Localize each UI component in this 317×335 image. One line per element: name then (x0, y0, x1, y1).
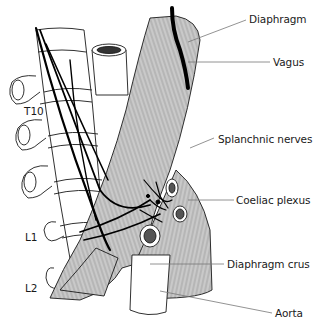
label-coeliac-plexus: Coeliac plexus (236, 194, 310, 206)
label-diaphragm: Diaphragm (249, 13, 307, 25)
label-vagus: Vagus (273, 56, 304, 68)
label-diaphragm-crus: Diaphragm crus (227, 258, 310, 270)
label-vertebra-t10: T10 (24, 105, 44, 117)
oesophagus (92, 44, 128, 95)
label-aorta: Aorta (275, 307, 303, 319)
anatomy-diagram (0, 0, 317, 335)
label-vertebra-l1: L1 (25, 231, 38, 243)
label-vertebra-l2: L2 (25, 282, 38, 294)
label-splanchnic-nerves: Splanchnic nerves (218, 133, 312, 145)
